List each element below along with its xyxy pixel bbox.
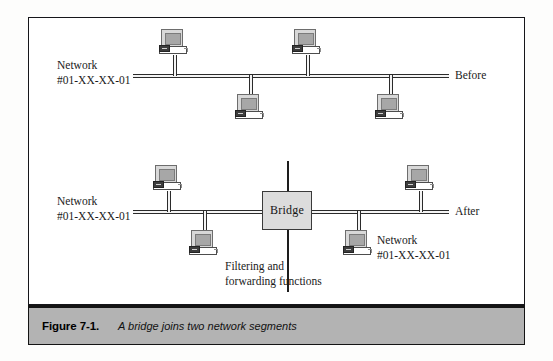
after-drop-left-below (203, 211, 207, 231)
after-right-network-bus (312, 210, 449, 214)
after-left-network-label: Network #01-XX-XX-01 (57, 194, 130, 224)
screen-icon (381, 98, 397, 110)
workstation-icon (375, 94, 405, 121)
figure-number: Figure 7-1. (42, 320, 99, 332)
base-corner-icon (184, 48, 188, 52)
base-corner-icon (400, 113, 404, 117)
screen-icon (349, 234, 365, 246)
screen-icon (159, 169, 175, 181)
before-drop-bottom-right (389, 75, 393, 95)
bridge-label: Bridge (270, 203, 304, 218)
screen-icon (195, 234, 211, 246)
before-network-label: Network #01-XX-XX-01 (57, 58, 130, 88)
cpu-slot-icon (192, 249, 197, 251)
after-left-network-label-line2: #01-XX-XX-01 (57, 209, 130, 224)
cpu-slot-icon (346, 249, 351, 251)
base-corner-icon (260, 113, 264, 117)
after-right-network-label: Network #01-XX-XX-01 (377, 233, 450, 263)
after-drop-right-below (357, 211, 361, 231)
filtering-annotation: Filtering and forwarding functions (225, 259, 322, 289)
base-corner-icon (430, 184, 434, 188)
cpu-slot-icon (295, 48, 300, 50)
figure-frame: Network #01-XX-XX-01 Before (28, 17, 525, 305)
base-corner-icon (317, 48, 321, 52)
before-drop-bottom-left (249, 75, 253, 95)
cpu-icon (189, 246, 200, 253)
workstation-icon (189, 230, 219, 257)
workstation-icon (292, 29, 322, 56)
cpu-icon (235, 110, 246, 117)
filtering-annotation-line2: forwarding functions (225, 274, 322, 289)
after-right-network-label-line1: Network (377, 233, 450, 248)
after-left-network-label-line1: Network (57, 194, 130, 209)
figure-caption-bar: Figure 7-1. A bridge joins two network s… (28, 305, 525, 345)
workstation-icon (153, 165, 183, 192)
cpu-icon (292, 45, 303, 52)
filtering-annotation-line1: Filtering and (225, 259, 322, 274)
bridge-node[interactable]: Bridge (262, 191, 312, 230)
before-state-label: Before (455, 68, 486, 82)
cpu-slot-icon (378, 113, 383, 115)
before-network-label-line2: #01-XX-XX-01 (57, 73, 130, 88)
after-riser-left-above (167, 191, 171, 212)
before-riser-top-right (306, 55, 310, 76)
screen-icon (298, 33, 314, 45)
base-corner-icon (178, 184, 182, 188)
figure-root: Network #01-XX-XX-01 Before (0, 0, 553, 361)
after-right-network-label-line2: #01-XX-XX-01 (377, 248, 450, 263)
before-network-label-line1: Network (57, 58, 130, 73)
before-network-bus (133, 74, 449, 78)
workstation-icon (235, 94, 265, 121)
cpu-slot-icon (408, 184, 413, 186)
cpu-icon (343, 246, 354, 253)
screen-icon (411, 169, 427, 181)
after-riser-right-above (419, 191, 423, 212)
workstation-icon (343, 230, 373, 257)
cpu-icon (159, 45, 170, 52)
screen-icon (241, 98, 257, 110)
screen-icon (165, 33, 181, 45)
workstation-icon (159, 29, 189, 56)
cpu-icon (405, 181, 416, 188)
cpu-slot-icon (238, 113, 243, 115)
cpu-slot-icon (162, 48, 167, 50)
before-riser-top-left (173, 55, 177, 76)
figure-caption-text: A bridge joins two network segments (118, 320, 297, 332)
cpu-slot-icon (156, 184, 161, 186)
base-corner-icon (214, 249, 218, 253)
cpu-icon (153, 181, 164, 188)
workstation-icon (405, 165, 435, 192)
cpu-icon (375, 110, 386, 117)
after-left-network-bus (133, 210, 263, 214)
base-corner-icon (368, 249, 372, 253)
after-state-label: After (455, 204, 479, 218)
